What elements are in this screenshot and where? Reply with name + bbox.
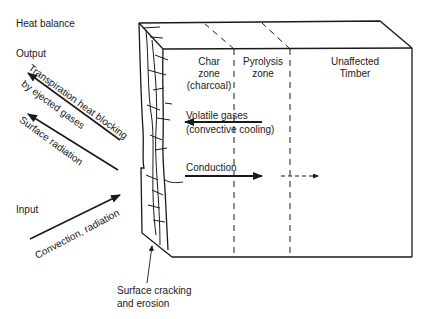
zone-unaffected-line2: Timber bbox=[320, 68, 390, 80]
output-heading: Output bbox=[16, 48, 46, 60]
volatile-gases-label: Volatile gases (convective cooling) bbox=[186, 110, 274, 136]
heat-balance-title: Heat balance bbox=[16, 18, 75, 30]
timber-block-diagram bbox=[0, 0, 429, 319]
zone-unaffected-label: Unaffected Timber bbox=[320, 56, 390, 80]
zone-char-line2: zone bbox=[185, 68, 233, 80]
volatile-gases-line1: Volatile gases bbox=[186, 110, 274, 122]
zone-char-label: Char zone (charcoal) bbox=[185, 56, 233, 92]
conduction-label: Conduction bbox=[186, 162, 237, 174]
input-heading: Input bbox=[16, 204, 38, 216]
zone-char-line1: Char bbox=[185, 56, 233, 68]
surface-cracking-line1: Surface cracking bbox=[117, 285, 191, 297]
surface-cracking-label: Surface cracking and erosion bbox=[117, 285, 191, 310]
zone-pyrolysis-line2: zone bbox=[238, 68, 288, 80]
zone-char-line3: (charcoal) bbox=[185, 80, 233, 92]
zone-pyrolysis-line1: Pyrolysis bbox=[238, 56, 288, 68]
surface-cracking-pointer bbox=[147, 246, 152, 283]
volatile-gases-line2: (convective cooling) bbox=[186, 124, 274, 136]
zone-unaffected-line1: Unaffected bbox=[320, 56, 390, 68]
surface-cracking-line2: and erosion bbox=[117, 298, 191, 310]
zone-pyrolysis-label: Pyrolysis zone bbox=[238, 56, 288, 80]
